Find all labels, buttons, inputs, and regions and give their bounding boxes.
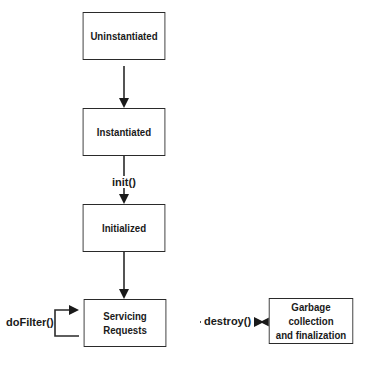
edge-label-init: init() bbox=[111, 176, 137, 188]
edge-label-dofilter: doFilter() bbox=[6, 316, 54, 328]
node-label-line2: and finalization bbox=[276, 328, 346, 342]
node-label: Uninstantiated bbox=[90, 29, 157, 43]
node-servicing-requests: Servicing Requests bbox=[84, 299, 167, 347]
node-label-line1: Servicing bbox=[103, 309, 147, 323]
edge-dofilter-loop bbox=[55, 310, 79, 336]
node-instantiated: Instantiated bbox=[83, 108, 166, 156]
node-label: Initialized bbox=[102, 221, 146, 235]
node-label-line2: Requests bbox=[103, 323, 147, 337]
node-uninstantiated: Uninstantiated bbox=[83, 12, 166, 60]
node-label-line1: Garbage collection bbox=[270, 300, 353, 328]
node-label: Instantiated bbox=[97, 125, 151, 139]
node-garbage-collection: Garbage collection and finalization bbox=[269, 298, 353, 344]
node-initialized: Initialized bbox=[83, 204, 166, 252]
edge-label-destroy: destroy() bbox=[201, 315, 254, 327]
